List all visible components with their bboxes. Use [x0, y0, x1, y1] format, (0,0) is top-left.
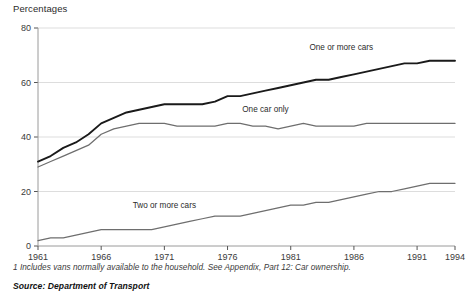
x-axis-label: 1966 [91, 252, 111, 260]
line-chart-plot: 020406080 196119661971197619811986199119… [0, 0, 467, 260]
series-label: Two or more cars [133, 201, 196, 210]
x-axis-label: 1971 [154, 252, 174, 260]
y-axis-label: 80 [21, 23, 31, 33]
x-axis-label: 1991 [407, 252, 427, 260]
footnote-text: 1 Includes vans normally available to th… [13, 263, 351, 272]
series-label: One car only [242, 105, 289, 114]
x-axis-label: 1961 [28, 252, 48, 260]
x-axis-label: 1981 [281, 252, 301, 260]
y-axis-label: 40 [21, 132, 31, 142]
y-axis-label: 0 [26, 241, 31, 251]
y-axis-label: 60 [21, 78, 31, 88]
y-axis-ticks-group [34, 28, 38, 246]
x-axis-labels-group: 19611966197119761981198619911994 [28, 252, 465, 260]
y-axis-labels-group: 020406080 [21, 23, 31, 251]
x-axis-label: 1986 [344, 252, 364, 260]
x-axis-label: 1976 [218, 252, 238, 260]
chart-figure: Percentages 020406080 196119661971197619… [0, 0, 467, 296]
series-line [38, 123, 455, 167]
series-label: One or more cars [309, 43, 373, 52]
y-axis-label: 20 [21, 187, 31, 197]
source-text: Source: Department of Transport [13, 281, 150, 291]
x-axis-label: 1994 [445, 252, 465, 260]
series-lines-group [38, 61, 455, 241]
x-axis-ticks-group [38, 246, 455, 250]
